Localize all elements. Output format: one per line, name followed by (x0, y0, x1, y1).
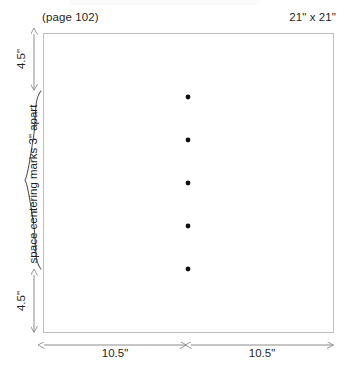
sewing-pattern-diagram: (page 102) 21" x 21" (0, 0, 344, 365)
clipped-header-artifact (70, 0, 260, 5)
page-reference-label: (page 102) (42, 11, 99, 23)
bottom-margin-dimension-label: 4.5" (15, 288, 27, 314)
right-half-width-dimension-label: 10.5" (232, 347, 292, 359)
sheet-size-label: 21" x 21" (289, 11, 336, 23)
left-half-width-dimension-label: 10.5" (85, 347, 145, 359)
centering-marks-brace-label: space centering marks 3" apart (27, 99, 39, 269)
fabric-sheet-rectangle (43, 33, 334, 333)
top-margin-dimension-label: 4.5" (15, 46, 27, 72)
